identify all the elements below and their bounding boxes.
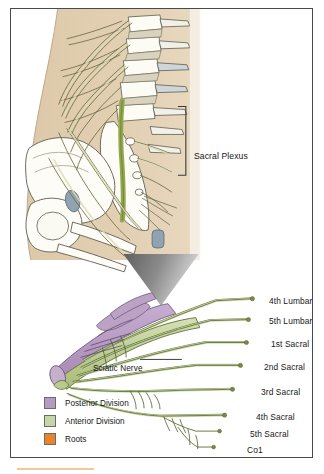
- root-label-co1: Co1: [247, 446, 263, 454]
- root-label-3rd-sacral: 3rd Sacral: [261, 388, 300, 396]
- root-label-4th-sacral: 4th Sacral: [256, 413, 295, 421]
- root-label-4th-lumbar: 4th Lumbar: [269, 297, 312, 305]
- sciatic-nerve-label: Sciatic Nerve: [93, 365, 143, 373]
- upper-panel-spine-pelvis: [23, 9, 312, 306]
- legend-label-anterior-division: Anterior Division: [65, 417, 125, 426]
- disc-marker-lower: [152, 230, 164, 248]
- legend-label-roots: Roots: [65, 435, 86, 444]
- legend-item-roots: Roots: [44, 430, 129, 448]
- legend: Posterior Division Anterior Division Roo…: [44, 394, 129, 448]
- root-label-5th-lumbar: 5th Lumbar: [269, 317, 312, 325]
- root-label-5th-sacral: 5th Sacral: [250, 430, 289, 438]
- legend-item-anterior-division: Anterior Division: [44, 412, 129, 430]
- footer-rule: [17, 468, 94, 470]
- root-label-1st-sacral: 1st Sacral: [271, 340, 309, 348]
- legend-item-posterior-division: Posterior Division: [44, 394, 129, 412]
- sacral-plexus-label: Sacral Plexus: [194, 152, 248, 161]
- legend-label-posterior-division: Posterior Division: [65, 399, 129, 408]
- root-label-2nd-sacral: 2nd Sacral: [264, 363, 305, 371]
- figure-frame: Sacral Plexus Sciatic Nerve 4th Lumbar 5…: [10, 8, 313, 458]
- legend-swatch-posterior-division: [44, 397, 56, 409]
- legend-swatch-roots: [44, 433, 56, 445]
- pelvic-wedge: [123, 254, 198, 306]
- legend-swatch-anterior-division: [44, 415, 56, 427]
- figure-stage: Sacral Plexus Sciatic Nerve 4th Lumbar 5…: [11, 9, 312, 457]
- femoral-head: [37, 212, 69, 240]
